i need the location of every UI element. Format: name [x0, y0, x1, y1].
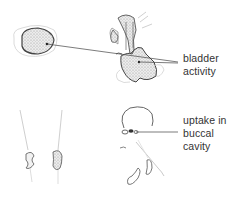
bladder-activity-label: bladder activity — [183, 52, 219, 78]
head-neck-lateral-view — [120, 107, 164, 185]
lower-limbs-view — [20, 110, 62, 184]
bladder-label-line-1: bladder — [183, 52, 219, 65]
pelvis-bladder-view — [110, 12, 164, 83]
buccal-label-line-2: buccal — [183, 127, 227, 140]
buccal-label-line-3: cavity — [183, 140, 227, 153]
buccal-label-line-1: uptake in — [183, 114, 227, 127]
bladder-label-line-2: activity — [183, 65, 219, 78]
buccal-uptake-label: uptake in buccal cavity — [183, 114, 227, 153]
bladder-axial-view — [14, 25, 57, 56]
bladder-leader-line — [47, 44, 178, 63]
diagram-canvas — [0, 0, 231, 201]
